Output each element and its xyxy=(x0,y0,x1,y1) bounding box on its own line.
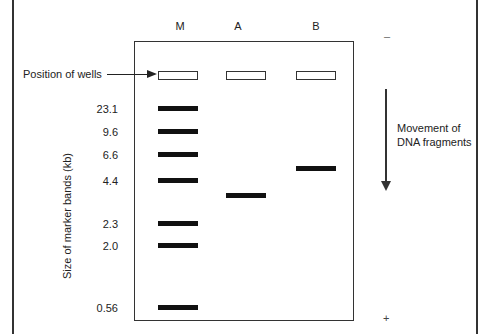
wells-label: Position of wells xyxy=(23,68,102,80)
frame-right-border xyxy=(476,0,478,334)
marker-band xyxy=(158,129,198,134)
marker-size-label: 9.6 xyxy=(78,126,118,138)
y-axis-label: Size of marker bands (kb) xyxy=(61,136,73,296)
movement-label-line1: Movement of xyxy=(397,121,472,135)
lane-b-band xyxy=(296,166,336,171)
lane-label-m: M xyxy=(170,20,190,32)
movement-label: Movement of DNA fragments xyxy=(397,121,472,149)
negative-electrode-sign: – xyxy=(384,30,390,42)
marker-band xyxy=(158,243,198,248)
marker-band xyxy=(158,178,198,183)
movement-arrowhead-icon xyxy=(381,181,391,191)
well-lane-b xyxy=(296,71,336,80)
marker-size-label: 4.4 xyxy=(78,175,118,187)
marker-band xyxy=(158,152,198,157)
lane-label-a: A xyxy=(228,20,248,32)
marker-size-label: 2.0 xyxy=(78,240,118,252)
frame-left-border xyxy=(12,0,14,334)
well-lane-a xyxy=(226,71,266,80)
marker-size-label: 0.56 xyxy=(78,302,118,314)
movement-arrow-line xyxy=(385,89,387,187)
wells-arrow-line xyxy=(107,74,149,75)
well-lane-m xyxy=(158,71,198,80)
wells-arrowhead-icon xyxy=(147,70,157,78)
marker-band xyxy=(158,221,198,226)
marker-band xyxy=(158,305,198,310)
lane-label-b: B xyxy=(306,20,326,32)
marker-size-label: 23.1 xyxy=(78,103,118,115)
positive-electrode-sign: + xyxy=(383,312,389,324)
marker-size-label: 2.3 xyxy=(78,218,118,230)
marker-band xyxy=(158,106,198,111)
lane-a-band xyxy=(226,193,266,198)
marker-size-label: 6.6 xyxy=(78,149,118,161)
movement-label-line2: DNA fragments xyxy=(397,135,472,149)
